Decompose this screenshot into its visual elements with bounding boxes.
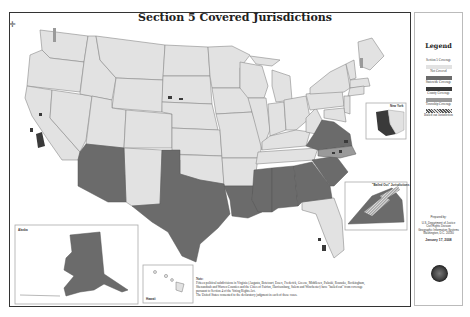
compass-rose-icon: ✛ bbox=[9, 20, 16, 29]
legend-panel: Legend Section 5 Coverage Not Covered St… bbox=[414, 12, 463, 306]
state-north-dakota bbox=[163, 45, 210, 76]
state-tennessee bbox=[256, 148, 318, 164]
legend-subtitle: Section 5 Coverage bbox=[415, 58, 462, 62]
legend-label: Not Covered bbox=[415, 69, 462, 73]
legend-item-bailed-out: Bailed out Jurisdiction bbox=[415, 109, 462, 117]
state-wyoming bbox=[112, 78, 163, 112]
state-kentucky bbox=[262, 130, 310, 150]
doj-seal-icon bbox=[431, 265, 448, 282]
alaska-label: Alaska bbox=[18, 228, 28, 232]
legend-item-county: County Coverage bbox=[415, 87, 462, 95]
us-map bbox=[0, 0, 470, 317]
state-wisconsin bbox=[240, 62, 268, 98]
state-new-york bbox=[310, 64, 350, 94]
new-york-label: New York bbox=[390, 104, 403, 108]
legend-item-statewide: Statewide Coverage bbox=[415, 76, 462, 84]
map-note: Note: Fifteen political subdivisions in … bbox=[196, 277, 406, 297]
map-title: Section 5 Covered Jurisdictions bbox=[0, 11, 470, 24]
legend-item-not-covered: Not Covered bbox=[415, 65, 462, 73]
prepared-by-label: Prepared by: bbox=[415, 216, 462, 220]
state-arizona bbox=[78, 144, 126, 202]
state-new-mexico bbox=[124, 148, 162, 206]
legend-label: Statewide Coverage bbox=[415, 80, 462, 84]
state-arkansas bbox=[222, 158, 258, 186]
state-mississippi bbox=[252, 168, 272, 212]
state-new-jersey bbox=[344, 96, 350, 114]
prepared-by: Prepared by: U.S. Department of Justice … bbox=[415, 216, 462, 236]
state-delaware-maryland bbox=[324, 108, 346, 122]
legend-item-township: Township Coverage bbox=[415, 98, 462, 106]
state-south-dakota bbox=[162, 76, 212, 104]
prepared-by-line: Washington, D.C. 20530 bbox=[415, 232, 462, 236]
legend-label: Township Coverage bbox=[415, 102, 462, 106]
hawaii-label: Hawaii bbox=[146, 297, 156, 301]
state-colorado bbox=[124, 110, 172, 148]
legend-title: Legend bbox=[415, 42, 462, 50]
legend-label: County Coverage bbox=[415, 91, 462, 95]
state-alabama bbox=[272, 166, 298, 212]
legend-label: Bailed out Jurisdiction bbox=[424, 113, 454, 117]
note-line: The United States consented to the decla… bbox=[196, 293, 406, 297]
bailed-out-label: "Bailed Out" Jurisdictions bbox=[372, 183, 409, 187]
map-date: January 17, 2008 bbox=[415, 238, 462, 242]
state-michigan bbox=[272, 70, 292, 102]
state-indiana bbox=[268, 102, 286, 136]
